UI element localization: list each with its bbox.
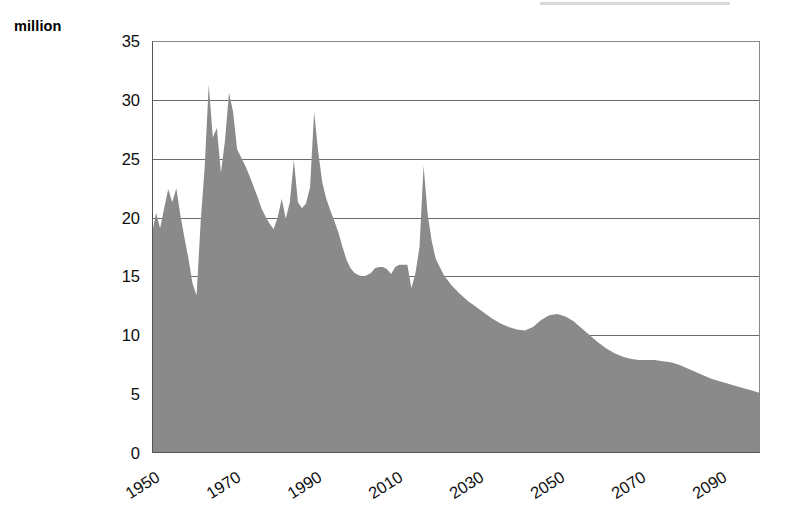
y-tick-label-35: 35 [122, 33, 140, 50]
y-tick-label-5: 5 [131, 386, 140, 403]
x-tick-text: 2010 [366, 468, 406, 501]
y-axis-tick-labels: 05101520253035 [92, 41, 140, 453]
x-tick-text: 1970 [204, 468, 244, 501]
y-tick-label-10: 10 [122, 327, 140, 344]
y-tick-label-0: 0 [131, 445, 140, 462]
y-tick-label-15: 15 [122, 268, 140, 285]
x-tick-label-2090: 2090 [684, 468, 730, 505]
x-tick-label-1950: 1950 [116, 468, 162, 505]
x-tick-label-2050: 2050 [522, 468, 568, 505]
chart-figure: million 05101520253035 19501970199020102… [0, 0, 785, 526]
x-tick-text: 2030 [447, 468, 487, 501]
y-axis-unit-label: million [14, 18, 61, 34]
plot-area [152, 41, 760, 453]
y-tick-label-20: 20 [122, 210, 140, 227]
y-tick-label-30: 30 [122, 92, 140, 109]
x-tick-label-1970: 1970 [197, 468, 243, 505]
area-series-svg [152, 41, 760, 453]
x-tick-text: 2070 [609, 468, 649, 501]
x-tick-text: 1950 [122, 468, 162, 501]
x-tick-text: 1990 [285, 468, 325, 501]
x-tick-label-1990: 1990 [278, 468, 324, 505]
x-tick-text: 2090 [690, 468, 730, 501]
area-series-path [152, 85, 760, 453]
x-tick-label-2070: 2070 [603, 468, 649, 505]
x-tick-text: 2050 [528, 468, 568, 501]
y-tick-label-25: 25 [122, 151, 140, 168]
x-tick-label-2030: 2030 [441, 468, 487, 505]
top-edge-artifact [540, 2, 730, 5]
x-axis-tick-labels: 19501970199020102030205020702090 [152, 453, 760, 523]
x-tick-label-2010: 2010 [360, 468, 406, 505]
